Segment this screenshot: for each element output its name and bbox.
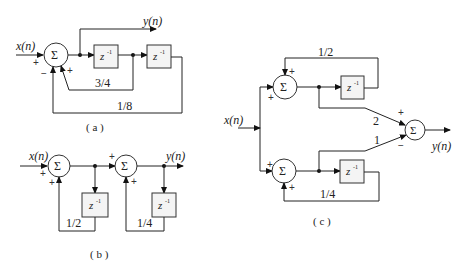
svg-text:Σ: Σ: [51, 48, 58, 62]
svg-text:z: z: [152, 50, 158, 62]
svg-text:-1: -1: [165, 198, 170, 204]
diagram-c-output-label: y(n): [431, 139, 451, 153]
diagram-c-input-label: x(n): [223, 113, 243, 127]
svg-text:z: z: [88, 199, 94, 211]
svg-text:+: +: [33, 57, 39, 68]
diagram-c-summer-output: Σ: [405, 120, 425, 140]
svg-text:Σ: Σ: [54, 159, 61, 173]
diagram-b-input-label: x(n): [28, 149, 48, 163]
block-diagrams-figure: x(n) + Σ y(n) z -1 z -1 3/4 +: [0, 0, 466, 268]
diagram-c-summer-bottom: Σ: [272, 159, 296, 183]
svg-text:+: +: [268, 92, 274, 103]
svg-text:+: +: [289, 66, 295, 77]
diagram-b-output-label: y(n): [165, 149, 185, 163]
diagram-a-delay-2: z -1: [147, 45, 171, 68]
svg-text:+: +: [289, 182, 295, 193]
diagram-b-caption: ( b ): [90, 248, 109, 261]
svg-text:z: z: [157, 199, 163, 211]
svg-text:-1: -1: [107, 49, 112, 55]
svg-text:+: +: [67, 65, 73, 76]
svg-text:-1: -1: [354, 80, 359, 86]
diagram-b-delay-1: z -1: [82, 193, 108, 217]
gain-1-4: 1/4: [137, 216, 152, 230]
diagram-a-delay-1: z -1: [94, 45, 118, 68]
diagram-c-delay-top: z -1: [341, 76, 364, 99]
gain-1-2: 1/2: [66, 216, 81, 230]
svg-text:+: +: [398, 107, 404, 118]
svg-text:z: z: [345, 165, 351, 177]
svg-text:z: z: [346, 81, 352, 93]
svg-text:-1: -1: [353, 164, 358, 170]
gain-1: 1: [374, 133, 380, 147]
svg-text:-1: -1: [96, 198, 101, 204]
diagram-c-caption: ( c ): [313, 215, 331, 228]
diagram-c-delay-bottom: z -1: [340, 160, 364, 183]
gain-1-4: 1/4: [320, 187, 335, 201]
gain-3-4: 3/4: [95, 76, 110, 90]
diagram-b-summer-1: Σ: [48, 155, 70, 177]
svg-text:+: +: [40, 168, 46, 179]
svg-text:z: z: [99, 50, 105, 62]
diagram-b: x(n) + Σ z -1 1/2 + + Σ y(n) z -1: [20, 149, 185, 261]
svg-text:−: −: [41, 68, 47, 79]
svg-text:Σ: Σ: [279, 164, 286, 178]
svg-text:+: +: [49, 177, 55, 188]
diagram-c-summer-top: Σ: [273, 75, 297, 99]
svg-text:−: −: [398, 140, 404, 151]
diagram-a-output-label: y(n): [142, 14, 162, 28]
diagram-b-delay-2: z -1: [152, 193, 176, 217]
diagram-a: x(n) + Σ y(n) z -1 z -1 3/4 +: [15, 14, 182, 134]
diagram-a-input-label: x(n): [15, 39, 35, 53]
gain-1-2: 1/2: [318, 45, 333, 59]
diagram-c: x(n) + + Σ z -1 1/2 + 2 + Σ: [223, 45, 451, 228]
svg-text:Σ: Σ: [410, 124, 416, 136]
diagram-a-summer: Σ: [44, 43, 68, 67]
gain-2: 2: [373, 114, 379, 128]
diagram-a-caption: ( a ): [86, 121, 104, 134]
svg-text:+: +: [109, 151, 115, 162]
diagram-b-summer-2: Σ: [115, 155, 137, 177]
svg-text:Σ: Σ: [121, 159, 128, 173]
svg-text:+: +: [131, 176, 137, 187]
gain-1-8: 1/8: [117, 99, 132, 113]
svg-text:-1: -1: [160, 49, 165, 55]
svg-text:Σ: Σ: [280, 80, 287, 94]
